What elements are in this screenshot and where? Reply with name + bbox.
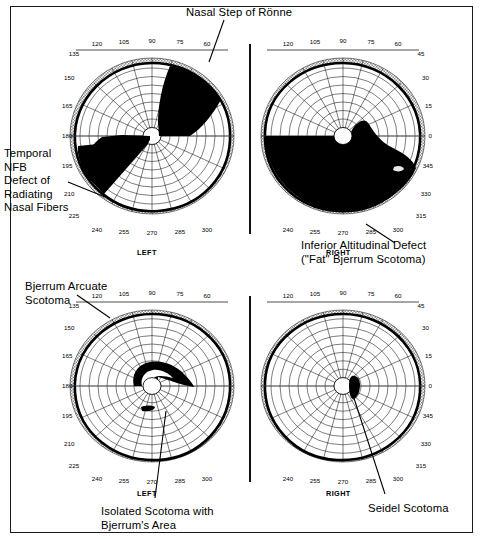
tick-285: 285 <box>366 477 377 484</box>
tick-345: 345 <box>423 412 433 419</box>
tick-285: 285 <box>366 228 377 235</box>
figure-page: 120 105 90 75 60 135 150 165 180 195 210… <box>0 0 483 539</box>
annotation-isolated-scotoma-2: Bjerrum's Area <box>101 519 176 533</box>
tick-75: 75 <box>177 38 184 45</box>
tick-0: 0 <box>429 382 433 389</box>
tick-345: 345 <box>423 162 433 169</box>
tick-30: 30 <box>422 74 429 81</box>
tick-180: 180 <box>62 132 73 139</box>
vertical-midline-top <box>249 44 251 234</box>
tick-165: 165 <box>62 102 73 109</box>
tick-120: 120 <box>283 292 294 299</box>
tick-270: 270 <box>147 478 158 485</box>
chart-top-left: 120 105 90 75 60 135 150 165 180 195 210… <box>62 36 242 246</box>
tick-60: 60 <box>204 40 211 47</box>
annotation-temporal-nfb: Temporal NFB Defect of Radiating Nasal F… <box>4 147 69 215</box>
tick-150: 150 <box>64 74 75 81</box>
annotation-bjerrum-arcuate-2: Scotoma <box>25 294 70 308</box>
tick-315: 315 <box>416 212 427 219</box>
tick-315: 315 <box>416 462 427 469</box>
tick-240: 240 <box>92 226 103 233</box>
tick-105: 105 <box>119 290 130 297</box>
tick-45: 45 <box>418 50 425 57</box>
tick-15: 15 <box>425 352 432 359</box>
tick-165: 165 <box>62 352 73 359</box>
tick-105: 105 <box>310 38 321 45</box>
tick-300: 300 <box>393 475 404 482</box>
tick-75: 75 <box>177 290 184 297</box>
tick-30: 30 <box>422 324 429 331</box>
tick-300: 300 <box>202 475 213 482</box>
chart-bottom-right: 120 105 90 75 60 45 30 15 0 345 330 315 … <box>253 288 433 493</box>
tick-240: 240 <box>283 475 294 482</box>
tick-225: 225 <box>69 212 80 219</box>
blind-spot <box>143 378 161 395</box>
tick-90: 90 <box>340 289 347 296</box>
tick-75: 75 <box>368 290 375 297</box>
tick-105: 105 <box>119 38 130 45</box>
tick-255: 255 <box>119 228 130 235</box>
tick-255: 255 <box>119 477 130 484</box>
tick-180: 180 <box>62 382 73 389</box>
tick-330: 330 <box>421 440 432 447</box>
eye-label-top-left: LEFT <box>137 248 157 257</box>
tick-270: 270 <box>338 478 349 485</box>
eye-label-bottom-left: LEFT <box>137 489 157 498</box>
tick-300: 300 <box>393 226 404 233</box>
tick-15: 15 <box>425 102 432 109</box>
tick-105: 105 <box>310 290 321 297</box>
tick-120: 120 <box>92 40 103 47</box>
eye-label-bottom-right: RIGHT <box>326 489 351 498</box>
tick-195: 195 <box>62 412 73 419</box>
tick-135: 135 <box>69 50 80 57</box>
tick-330: 330 <box>421 190 432 197</box>
tick-255: 255 <box>310 477 321 484</box>
annotation-isolated-scotoma-1: Isolated Scotoma with <box>101 505 214 519</box>
annotation-bjerrum-arcuate-1: Bjerrum Arcuate <box>25 280 108 294</box>
tick-255: 255 <box>310 228 321 235</box>
vertical-midline-bottom <box>249 296 251 482</box>
tick-270: 270 <box>338 229 349 236</box>
tick-90: 90 <box>340 37 347 44</box>
tick-285: 285 <box>175 228 186 235</box>
annotation-nasal-step: Nasal Step of Rönne <box>186 6 292 20</box>
chart-bottom-left: 120 105 90 75 60 135 150 165 180 195 210… <box>62 288 242 493</box>
tick-225: 225 <box>69 462 80 469</box>
annotation-inferior-altitudinal-1: Inferior Altitudinal Defect <box>301 239 426 253</box>
tick-75: 75 <box>368 38 375 45</box>
chart-top-right: 120 105 90 75 60 45 30 15 0 345 330 315 … <box>253 36 433 246</box>
tick-0: 0 <box>429 132 433 139</box>
annotation-inferior-altitudinal-2: ("Fat" Bjerrum Scotoma) <box>301 253 426 267</box>
tick-90: 90 <box>149 37 156 44</box>
tick-210: 210 <box>64 440 75 447</box>
tick-135: 135 <box>69 302 80 309</box>
tick-150: 150 <box>64 324 75 331</box>
tick-285: 285 <box>175 477 186 484</box>
blind-spot <box>334 128 352 145</box>
tick-90: 90 <box>149 289 156 296</box>
annotation-seidel-scotoma: Seidel Scotoma <box>368 502 449 516</box>
tick-240: 240 <box>92 475 103 482</box>
tick-60: 60 <box>395 292 402 299</box>
tick-120: 120 <box>283 40 294 47</box>
tick-45: 45 <box>418 302 425 309</box>
tick-60: 60 <box>395 40 402 47</box>
tick-270: 270 <box>147 229 158 236</box>
tick-240: 240 <box>283 226 294 233</box>
tick-300: 300 <box>202 226 213 233</box>
tick-60: 60 <box>204 292 211 299</box>
